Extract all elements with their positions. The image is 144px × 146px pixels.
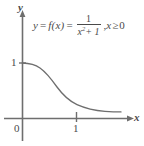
fraction-denominator: x2+ 1 xyxy=(77,26,101,37)
equation-equals-second: = xyxy=(66,20,72,31)
x-axis-arrow-icon xyxy=(127,116,134,122)
function-equation: y = f(x) = 1 x2+ 1 ,x≥0 xyxy=(33,14,125,37)
equation-lhs: y xyxy=(33,20,38,31)
x-axis-label: x xyxy=(134,112,140,123)
denominator-rest: + 1 xyxy=(85,26,99,37)
function-graph-figure: y = f(x) = 1 x2+ 1 ,x≥0 y x 1 1 0 xyxy=(0,0,144,146)
y-tick-label-1: 1 xyxy=(11,57,17,68)
x-tick-label-1: 1 xyxy=(73,123,79,134)
fraction-numerator: 1 xyxy=(83,14,94,24)
y-axis-label: y xyxy=(18,2,23,13)
domain-value: 0 xyxy=(119,19,125,31)
origin-label: 0 xyxy=(14,123,20,134)
equation-equals-first: = xyxy=(40,20,46,31)
equation-fraction: 1 x2+ 1 xyxy=(77,14,101,37)
function-curve xyxy=(23,63,122,112)
equation-domain: ,x≥0 xyxy=(104,20,125,31)
domain-variable: x xyxy=(106,19,111,31)
domain-relation-symbol: ≥ xyxy=(112,19,118,31)
equation-function-name: f(x) xyxy=(48,20,64,31)
